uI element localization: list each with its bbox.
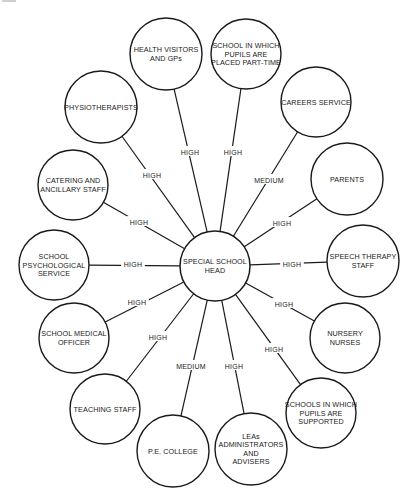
relationship-diagram: HIGHHIGHMEDIUMHIGHHIGHHIGHHIGHHIGHMEDIUM… <box>0 0 416 503</box>
node-label-line: ADVISERS <box>232 457 269 466</box>
relation-strength: HIGH <box>265 346 283 353</box>
edge-label-school-medical-officer: HIGH <box>125 296 149 306</box>
relation-strength: HIGH <box>128 299 146 306</box>
relation-strength: HIGH <box>273 220 291 227</box>
relation-strength: MEDIUM <box>254 177 284 184</box>
node-school-part-time: SCHOOL IN WHICHPUPILS AREPLACED PART-TIM… <box>211 19 281 89</box>
node-label-line: STAFF <box>352 261 375 270</box>
edge-label-health-visitors: HIGH <box>178 146 202 156</box>
node-label-line: HEAD <box>205 266 225 275</box>
node-label-line: PHYSIOTHERAPISTS <box>64 103 138 112</box>
edge-label-school-part-time: HIGH <box>221 146 245 156</box>
node-leas: LEAsADMINISTRATORSANDADVISERS <box>215 413 287 485</box>
node-label-line: SUPPORTED <box>298 417 344 426</box>
node-label-line: OFFICER <box>58 338 90 347</box>
node-label-line: CAREERS SERVICE <box>281 98 351 107</box>
relation-strength: HIGH <box>130 219 148 226</box>
relation-strength: MEDIUM <box>176 363 206 370</box>
node-label-line: AND GPs <box>150 54 182 63</box>
node-label-line: P.E. COLLEGE <box>148 447 198 456</box>
node-parents: PARENTS <box>311 143 383 215</box>
relation-strength: HIGH <box>283 261 301 268</box>
node-schools-supported: SCHOOLS IN WHICHPUPILS ARESUPPORTED <box>285 378 357 448</box>
node-catering-staff: CATERING ANDANCILLARY STAFF <box>38 150 108 220</box>
node-label-line: SERVICE <box>38 269 70 278</box>
node-label-line: NURSES <box>330 338 361 347</box>
node-health-visitors: HEALTH VISITORSAND GPs <box>130 18 202 90</box>
edge-leas <box>222 300 244 413</box>
edge-label-physiotherapists: HIGH <box>140 169 164 179</box>
relation-strength: HIGH <box>225 363 243 370</box>
edge-health-visitors <box>174 89 207 232</box>
edge-school-part-time <box>220 89 241 232</box>
node-careers-service: CAREERS SERVICE <box>281 67 351 137</box>
node-speech-therapy: SPEECH THERAPYSTAFF <box>327 225 399 297</box>
edge-label-nursery-nurses: HIGH <box>272 298 296 308</box>
edge-label-schools-supported: HIGH <box>262 343 286 353</box>
relation-strength: HIGH <box>224 149 242 156</box>
relation-strength: HIGH <box>149 334 167 341</box>
node-teaching-staff: TEACHING STAFF <box>70 374 140 444</box>
node-pe-college: P.E. COLLEGE <box>137 415 209 487</box>
edge-pe-college <box>181 300 207 416</box>
edge-label-speech-therapy: HIGH <box>280 258 304 268</box>
edge-label-catering-staff: HIGH <box>127 216 151 226</box>
relation-strength: HIGH <box>124 261 142 268</box>
node-label-line: PLACED PART-TIME <box>211 58 281 67</box>
edge-label-teaching-staff: HIGH <box>146 331 170 341</box>
node-label-line: TEACHING STAFF <box>74 405 137 414</box>
node-school-psychological-service: SCHOOLPSYCHOLOGICALSERVICE <box>19 230 89 300</box>
node-nursery-nurses: NURSERYNURSES <box>310 303 380 373</box>
edge-label-school-psychological-service: HIGH <box>121 258 145 268</box>
center-node: SPECIAL SCHOOLHEAD <box>180 231 250 301</box>
node-label-line: PARENTS <box>330 175 364 184</box>
relation-strength: HIGH <box>143 172 161 179</box>
edge-label-parents: HIGH <box>270 217 294 227</box>
edge-label-leas: HIGH <box>222 360 246 370</box>
node-school-medical-officer: SCHOOL MEDICALOFFICER <box>39 303 109 373</box>
edge-label-pe-college: MEDIUM <box>174 360 207 370</box>
relation-strength: HIGH <box>181 149 199 156</box>
node-physiotherapists: PHYSIOTHERAPISTS <box>64 71 138 143</box>
node-label-line: ANCILLARY STAFF <box>40 185 106 194</box>
edge-label-careers-service: MEDIUM <box>252 174 285 184</box>
relation-strength: HIGH <box>275 301 293 308</box>
